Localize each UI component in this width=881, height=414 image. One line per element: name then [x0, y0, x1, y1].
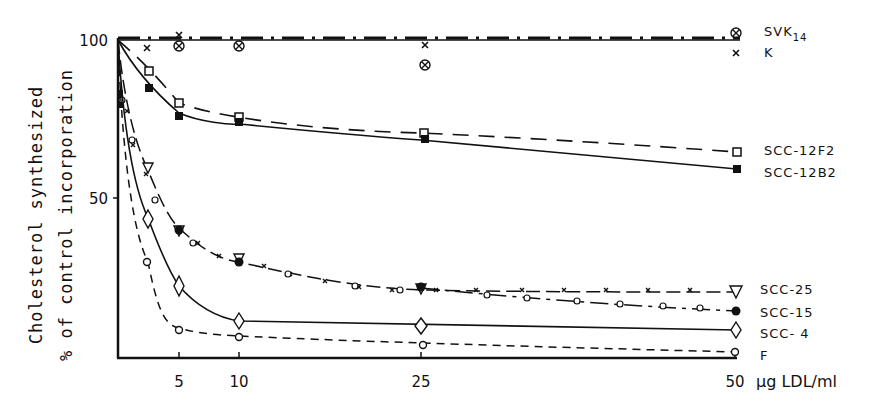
- y-tick-50: 50: [89, 190, 108, 208]
- x-tick-5: 5: [174, 373, 184, 391]
- series-scc-12b2: [117, 40, 741, 173]
- chart: Cholesterol synthesized % of control inc…: [0, 0, 881, 414]
- series-svk14-k: [118, 28, 741, 70]
- x-tick-10: 10: [229, 373, 248, 391]
- label-k: K: [764, 45, 774, 60]
- series-labels: SVK14 K SCC-12F2 SCC-12B2 SCC-25 SCC-15 …: [760, 24, 837, 363]
- x-axis-unit: µg LDL/ml: [756, 372, 837, 391]
- y-tick-100: 100: [79, 32, 108, 50]
- label-svk14: SVK14: [764, 24, 807, 43]
- series-scc-15: [119, 97, 741, 316]
- label-f: F: [760, 348, 768, 363]
- y-axis-label-line2: % of control incorporation: [56, 69, 76, 361]
- series-scc-12f2: [118, 40, 741, 156]
- series-scc-4: [118, 40, 741, 338]
- x-markers: [144, 32, 739, 56]
- circle-x-markers: [174, 28, 741, 70]
- series-f: [118, 40, 739, 356]
- label-scc-12f2: SCC-12F2: [764, 143, 835, 158]
- series-scc-25: [118, 40, 742, 298]
- label-scc-15: SCC-15: [760, 305, 814, 320]
- x-tick-25: 25: [411, 373, 430, 391]
- x-tick-50: 50: [725, 373, 744, 391]
- label-scc-4: SCC- 4: [760, 326, 810, 341]
- label-scc-25: SCC-25: [760, 282, 814, 297]
- label-scc-12b2: SCC-12B2: [764, 165, 837, 180]
- y-axis-label-line1: Cholesterol synthesized: [26, 86, 46, 344]
